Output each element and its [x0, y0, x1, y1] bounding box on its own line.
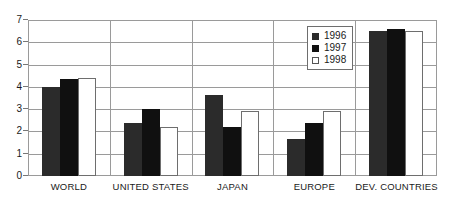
legend-item: 1998 — [312, 54, 346, 66]
legend-swatch-1996-icon — [312, 33, 319, 40]
bar-1998-europe — [323, 111, 341, 176]
y-tick-label: 7 — [0, 15, 22, 25]
bar-1997-united-states — [142, 109, 160, 176]
bar-1998-world — [78, 78, 96, 176]
y-tick-label: 4 — [0, 82, 22, 92]
y-tick-label: 3 — [0, 104, 22, 114]
bar-group — [28, 20, 110, 176]
bar-chart: 01234567 WORLDUNITED STATESJAPANEUROPEDE… — [0, 0, 450, 206]
legend-item: 1996 — [312, 30, 346, 42]
y-tick-label: 0 — [0, 171, 22, 181]
group-separator — [110, 20, 111, 176]
bar-1996-world — [42, 87, 60, 176]
legend-swatch-1997-icon — [312, 45, 319, 52]
group-separator — [192, 20, 193, 176]
x-tick-label: JAPAN — [192, 181, 274, 192]
y-tick-label: 6 — [0, 37, 22, 47]
bar-1996-dev-countries — [369, 31, 387, 176]
bar-group — [355, 20, 437, 176]
bar-1998-united-states — [160, 127, 178, 176]
group-separator — [355, 20, 356, 176]
bar-1997-europe — [305, 123, 323, 176]
chart-legend: 1996 1997 1998 — [307, 26, 353, 70]
x-tick-label: UNITED STATES — [110, 181, 192, 192]
bar-1998-japan — [241, 111, 259, 176]
x-tick-label: WORLD — [28, 181, 110, 192]
bar-group — [110, 20, 192, 176]
bar-group — [192, 20, 274, 176]
bar-1997-world — [60, 79, 78, 176]
y-tick-label: 5 — [0, 60, 22, 70]
group-separator — [273, 20, 274, 176]
bar-1996-europe — [287, 139, 305, 176]
legend-label: 1997 — [324, 43, 346, 53]
legend-label: 1998 — [324, 55, 346, 65]
x-tick-label: EUROPE — [273, 181, 355, 192]
bar-1996-united-states — [124, 123, 142, 176]
x-tick-label: DEV. COUNTRIES — [355, 181, 437, 192]
bar-1997-dev-countries — [387, 29, 405, 176]
bar-1998-dev-countries — [405, 31, 423, 176]
y-tick-label: 2 — [0, 126, 22, 136]
y-tick-label: 1 — [0, 149, 22, 159]
legend-swatch-1998-icon — [312, 57, 319, 64]
legend-label: 1996 — [324, 31, 346, 41]
bar-1997-japan — [223, 127, 241, 176]
bars-layer — [28, 20, 437, 176]
legend-item: 1997 — [312, 42, 346, 54]
bar-1996-japan — [205, 95, 223, 176]
